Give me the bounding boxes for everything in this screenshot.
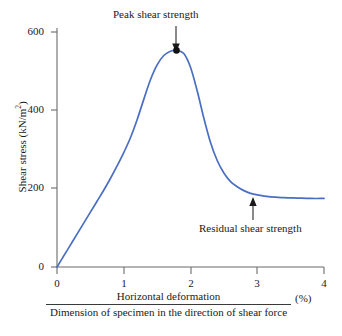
peak-shear-strength-marker bbox=[173, 47, 180, 54]
y-tick-label-600: 600 bbox=[12, 25, 44, 37]
peak-shear-strength-label: Peak shear strength bbox=[113, 8, 199, 20]
x-tick-label-3: 3 bbox=[245, 277, 269, 289]
x-tick-label-4: 4 bbox=[312, 277, 336, 289]
x-tick-label-1: 1 bbox=[112, 277, 136, 289]
y-axis-title-exponent: 2 bbox=[14, 105, 23, 109]
x-tick-label-2: 2 bbox=[179, 277, 203, 289]
shear-stress-chart-figure: 600 400 200 0 0 1 2 3 4 Shear stress (kN… bbox=[0, 0, 342, 336]
y-axis-title-text: Shear stress (kN/m bbox=[16, 109, 28, 193]
x-axis-ticks bbox=[57, 267, 324, 274]
x-tick-label-0: 0 bbox=[45, 277, 69, 289]
x-axis-caption: Horizontal deformation Dimension of spec… bbox=[46, 290, 336, 318]
y-axis-title: Shear stress (kN/m2) bbox=[14, 82, 28, 212]
x-axis-fraction-numerator: Horizontal deformation bbox=[46, 290, 291, 305]
x-axis-unit-percent: (%) bbox=[295, 292, 312, 304]
x-axis-fraction-denominator: Dimension of specimen in the direction o… bbox=[46, 305, 291, 319]
residual-shear-strength-label: Residual shear strength bbox=[199, 222, 302, 234]
y-axis-ticks bbox=[51, 32, 57, 267]
shear-stress-curve bbox=[57, 50, 324, 267]
x-axis-fraction: Horizontal deformation Dimension of spec… bbox=[46, 290, 291, 318]
y-tick-label-0: 0 bbox=[12, 260, 44, 272]
y-axis-title-close: ) bbox=[16, 101, 28, 105]
residual-annotation-arrow bbox=[249, 197, 256, 220]
